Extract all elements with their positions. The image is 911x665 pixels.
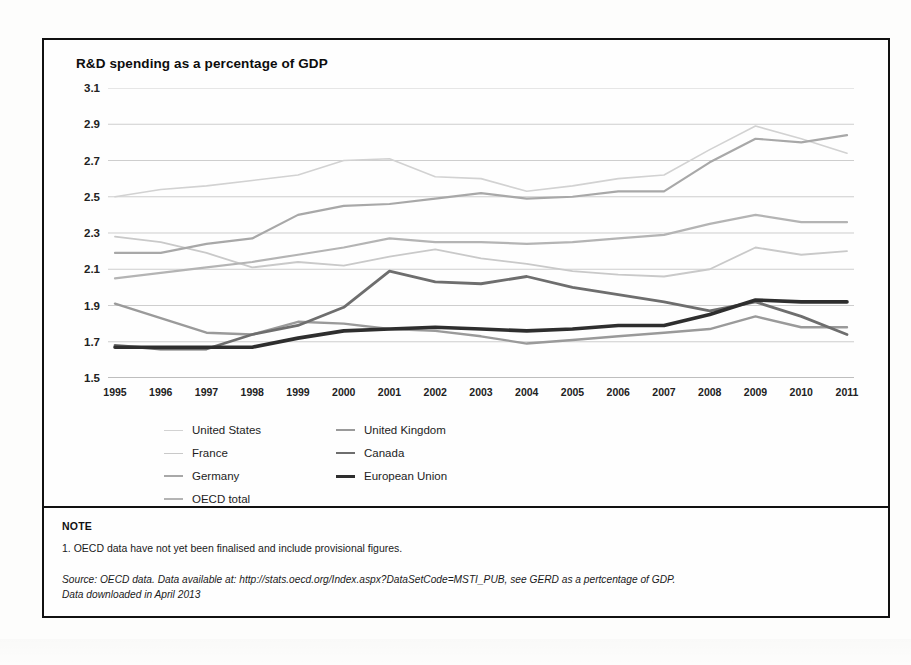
y-axis-tick-label: 2.1 [84, 263, 100, 275]
note-item-1: 1. OECD data have not yet been finalised… [62, 542, 402, 554]
legend-label: France [192, 447, 228, 459]
series-line-united-kingdom [115, 304, 847, 344]
legend-swatch-icon [164, 498, 183, 500]
note-source: Source: OECD data. Data available at: ht… [62, 572, 862, 602]
legend-item-germany[interactable]: Germany [164, 470, 239, 482]
x-axis-tick-label: 1996 [149, 386, 172, 398]
legend-item-european-union[interactable]: European Union [336, 470, 447, 482]
y-axis-tick-label: 1.9 [84, 300, 100, 312]
legend-item-canada[interactable]: Canada [336, 447, 404, 459]
legend-swatch-icon [336, 475, 355, 478]
line-chart-svg [108, 88, 854, 378]
x-axis-tick-label: 2002 [424, 386, 447, 398]
plot-area [108, 88, 854, 378]
series-line-germany [115, 135, 847, 253]
legend-item-france[interactable]: France [164, 447, 228, 459]
legend-swatch-icon [164, 475, 183, 477]
y-axis-tick-label: 2.5 [84, 191, 100, 203]
legend-label: OECD total [192, 493, 250, 505]
legend-label: Canada [364, 447, 404, 459]
legend-item-united-states[interactable]: United States [164, 424, 261, 436]
x-axis-tick-label: 1999 [286, 386, 309, 398]
series-lines [115, 126, 847, 349]
y-axis-labels: 1.51.71.92.12.32.52.72.93.1 [44, 88, 106, 378]
legend-swatch-icon [336, 429, 355, 431]
legend-label: European Union [364, 470, 447, 482]
x-axis-tick-label: 2006 [607, 386, 630, 398]
series-line-european-union [115, 300, 847, 347]
x-axis-tick-label: 2004 [515, 386, 538, 398]
y-axis-tick-label: 3.1 [84, 82, 100, 94]
x-axis-tick-label: 2000 [332, 386, 355, 398]
x-axis-labels: 1995199619971998199920002001200220032004… [108, 386, 854, 408]
x-axis-tick-label: 1998 [241, 386, 264, 398]
chart-panel: R&D spending as a percentage of GDP 1.51… [44, 40, 888, 506]
legend-item-united-kingdom[interactable]: United Kingdom [336, 424, 446, 436]
series-line-oecd-total [115, 215, 847, 278]
y-axis-tick-label: 2.3 [84, 227, 100, 239]
x-axis-tick-label: 2011 [836, 386, 859, 398]
x-axis-tick-label: 2001 [378, 386, 401, 398]
note-panel: NOTE 1. OECD data have not yet been fina… [44, 506, 888, 616]
legend-swatch-icon [336, 452, 355, 454]
chart-title: R&D spending as a percentage of GDP [76, 56, 328, 71]
x-axis-tick-label: 2003 [469, 386, 492, 398]
figure-container: R&D spending as a percentage of GDP 1.51… [42, 38, 890, 618]
note-heading: NOTE [62, 520, 92, 532]
legend-label: United States [192, 424, 261, 436]
page-background-noise [0, 639, 911, 665]
y-axis-tick-label: 1.7 [84, 336, 100, 348]
chart-legend: United StatesUnited KingdomFranceCanadaG… [164, 424, 584, 510]
x-axis-tick-label: 2010 [790, 386, 813, 398]
legend-swatch-icon [164, 430, 183, 431]
x-axis-tick-label: 2009 [744, 386, 767, 398]
x-axis-tick-label: 2008 [698, 386, 721, 398]
series-line-united-states [115, 126, 847, 197]
note-source-line-1: Source: OECD data. Data available at: ht… [62, 574, 675, 585]
y-axis-tick-label: 2.7 [84, 155, 100, 167]
x-axis-tick-label: 1995 [103, 386, 126, 398]
y-axis-tick-label: 2.9 [84, 118, 100, 130]
legend-label: United Kingdom [364, 424, 446, 436]
x-axis-tick-label: 2007 [652, 386, 675, 398]
gridlines [108, 88, 854, 378]
note-source-line-2: Data downloaded in April 2013 [62, 589, 200, 600]
x-axis-tick-label: 1997 [195, 386, 218, 398]
y-axis-tick-label: 1.5 [84, 372, 100, 384]
legend-label: Germany [192, 470, 239, 482]
x-axis-tick-label: 2005 [561, 386, 584, 398]
legend-item-oecd-total[interactable]: OECD total [164, 493, 250, 505]
legend-swatch-icon [164, 453, 183, 454]
